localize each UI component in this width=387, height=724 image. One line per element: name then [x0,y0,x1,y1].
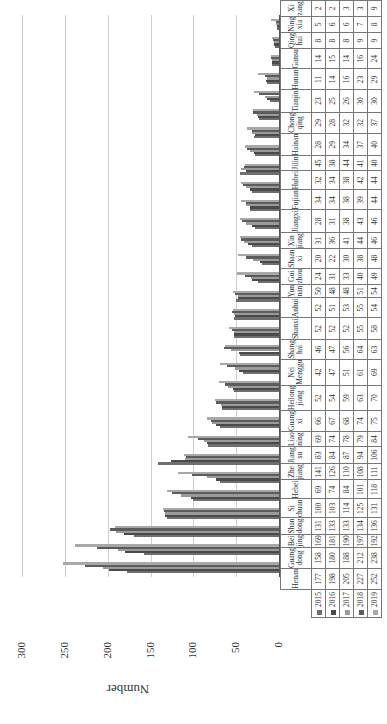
bar [276,23,279,25]
bar-group [22,505,279,523]
table-cell: 63 [354,385,368,410]
category-label: Shanxi [281,318,312,340]
table-cell: 52 [326,318,340,340]
bar [184,454,279,456]
table-cell: 70 [368,385,382,410]
bar-group [22,468,279,486]
table-cell: 6 [326,16,340,32]
bar [276,21,279,23]
bar [163,508,280,510]
table-cell: 134 [354,518,368,534]
bar [271,57,279,59]
table-cell: 34 [312,190,326,210]
table-cell: 34 [340,133,354,156]
bar [116,531,279,533]
bar [215,399,279,401]
table-cell: 14 [326,69,340,90]
bar [245,275,279,277]
table-row: 2018227212197134125101108947974636164555… [354,1,368,618]
bar [167,490,279,492]
bar [75,544,279,546]
bar [243,372,279,374]
bar [247,148,279,150]
table-cell: 66 [312,410,326,431]
bar [63,562,279,564]
bar [185,458,279,460]
table-cell: 126 [326,464,340,480]
table-cell: 9 [354,32,368,48]
table-cell: 7 [354,16,368,32]
bar-group [22,233,279,251]
table-cell: 87 [340,447,354,464]
bar [165,515,279,517]
table-cell: 9 [368,1,382,17]
bar-group [22,251,279,269]
table-cell: 26 [340,90,354,112]
bar [228,386,279,388]
bar [144,553,279,555]
category-label: Shang hai [281,340,312,360]
legend-entry: 2019 [368,589,382,617]
bar [85,565,279,567]
bar [178,472,279,474]
table-cell: 38 [326,156,340,170]
table-cell: 52 [312,385,326,410]
bar [241,200,279,202]
table-cell: 177 [312,568,326,589]
bar [274,41,279,43]
category-label: Liao ning [281,431,312,446]
bar [240,236,279,238]
bar [277,27,279,29]
category-label: Guang dong [281,547,312,568]
table-cell: 180 [326,547,340,568]
legend-swatch-icon [359,610,364,615]
plot-area [22,15,279,577]
bar [252,225,279,227]
bar-group [22,106,279,124]
table-cell: 45 [312,156,326,170]
legend-entry: 2018 [354,589,368,617]
table-cell: 68 [340,410,354,431]
bar-group [22,359,279,377]
table-corner [281,589,312,617]
table-cell: 44 [340,156,354,170]
table-cell: 28 [312,133,326,156]
bar [246,170,279,172]
bar-group [22,269,279,287]
y-tick-label: 150 [144,642,156,674]
bar-group [22,559,279,577]
bar [222,408,279,410]
table-cell: 32 [340,112,354,133]
table-cell: 118 [368,480,382,499]
table-cell: 192 [368,534,382,547]
bar [267,98,279,100]
table-cell: 101 [354,480,368,499]
bar [252,191,279,193]
bar [234,333,279,335]
legend-entry: 2016 [326,589,340,617]
table-cell: 42 [354,170,368,189]
y-tick-label: 250 [58,642,70,674]
y-tick-label: 100 [186,642,198,674]
table-cell: 133 [326,518,340,534]
table-cell: 158 [312,547,326,568]
table-cell: 31 [326,210,340,233]
table-cell: 74 [354,410,368,431]
bar [231,349,279,351]
table-cell: 52 [312,318,326,340]
bar [240,218,279,220]
table-cell: 56 [340,340,354,360]
bar [253,109,279,111]
bar [224,347,279,349]
table-cell: 46 [368,210,382,233]
category-label: Yun nan [281,284,312,298]
category-label: Zhe jiang [281,464,312,480]
bar [238,295,279,297]
bar [238,254,279,256]
bar [235,367,279,369]
bar [267,77,279,79]
table-cell: 28 [326,112,340,133]
bar [171,460,279,462]
bar [191,497,279,499]
table-cell: 47 [326,359,340,385]
